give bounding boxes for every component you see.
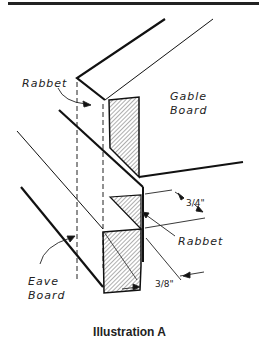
gable-board-label-line2: Board — [170, 104, 208, 117]
rabbet-cutout-end — [110, 195, 141, 229]
gable-board — [77, 19, 243, 177]
rabbet-label-top: Rabbet — [22, 77, 67, 90]
illustration-caption: Illustration A — [0, 325, 259, 339]
dimension-three-quarter-inch: 3/4" — [186, 198, 205, 208]
gable-board-label-line1: Gable — [170, 90, 207, 103]
eave-board-label-line1: Eave — [28, 275, 59, 288]
rabbet-joint-diagram: Rabbet Gable Board Rabbet Eave Board 3/4… — [0, 0, 259, 353]
gable-board-end-grain — [109, 97, 139, 177]
hidden-lines — [77, 82, 103, 280]
dimension-three-eighths-inch: 3/8" — [155, 279, 174, 289]
eave-board-label-line2: Board — [28, 289, 66, 302]
rabbet-label-right: Rabbet — [178, 235, 223, 248]
